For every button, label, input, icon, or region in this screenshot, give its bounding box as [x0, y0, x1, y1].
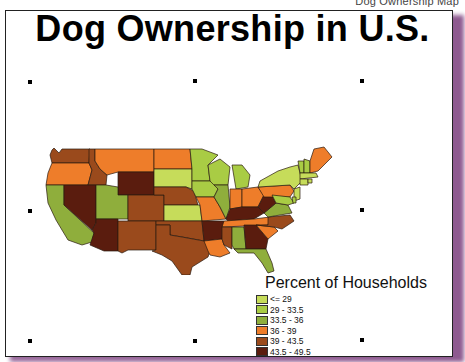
legend-label: 33.5 - 36	[270, 315, 304, 325]
state-ND	[154, 149, 192, 169]
selection-handle-bottom-center[interactable]	[193, 339, 197, 343]
state-ME	[310, 147, 332, 173]
state-OR	[46, 163, 92, 185]
legend-item: 43.5 - 49.5	[256, 347, 311, 358]
state-CT	[300, 179, 308, 185]
state-CO	[128, 195, 164, 221]
legend-swatch	[256, 295, 268, 304]
state-RI	[308, 179, 312, 183]
map-legend: <= 29 29 - 33.5 33.5 - 36 36 - 39 39 - 4…	[256, 294, 311, 357]
legend-title: Percent of Households	[265, 274, 427, 292]
legend-label: 43.5 - 49.5	[270, 347, 311, 357]
state-WI	[208, 159, 230, 185]
selection-handle-middle-right[interactable]	[360, 208, 364, 212]
state-NY	[258, 165, 302, 189]
state-IN	[230, 189, 242, 209]
legend-item: 29 - 33.5	[256, 305, 311, 316]
state-MA	[300, 173, 318, 179]
state-KS	[164, 205, 202, 221]
legend-swatch	[256, 305, 268, 314]
legend-item: 33.5 - 36	[256, 315, 311, 326]
legend-swatch	[256, 326, 268, 335]
legend-swatch	[256, 347, 268, 356]
legend-item: 39 - 43.5	[256, 336, 311, 347]
selection-handle-middle-left[interactable]	[28, 209, 32, 213]
state-FL	[234, 249, 274, 273]
legend-label: 36 - 39	[270, 326, 296, 336]
legend-label: 29 - 33.5	[270, 305, 304, 315]
state-MT	[95, 149, 154, 175]
state-NH	[304, 159, 310, 173]
selection-handle-bottom-left[interactable]	[28, 339, 32, 343]
state-AR	[202, 221, 224, 241]
map-title: Dog Ownership in U.S.	[0, 8, 465, 50]
selection-handle-bottom-right[interactable]	[360, 338, 364, 342]
state-DE	[292, 197, 296, 203]
us-choropleth-map	[42, 145, 342, 275]
state-NM	[118, 221, 156, 253]
selection-handle-top-center[interactable]	[193, 79, 197, 83]
legend-label: <= 29	[270, 294, 292, 304]
legend-item: 36 - 39	[256, 326, 311, 337]
state-SD	[154, 169, 192, 189]
state-AL	[232, 227, 246, 249]
legend-swatch	[256, 316, 268, 325]
state-WA	[50, 148, 90, 163]
legend-item: <= 29	[256, 294, 311, 305]
selection-handle-top-left[interactable]	[28, 80, 32, 84]
page-caption: Dog Ownership Map	[355, 0, 459, 7]
selection-handle-top-right[interactable]	[360, 79, 364, 83]
state-MI	[232, 165, 250, 189]
state-WY	[118, 172, 154, 195]
legend-label: 39 - 43.5	[270, 336, 304, 346]
legend-swatch	[256, 337, 268, 346]
